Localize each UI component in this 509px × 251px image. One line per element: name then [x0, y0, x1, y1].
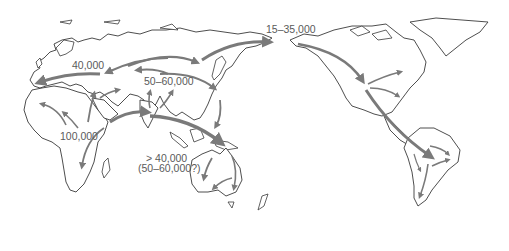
- label-asia-date: 50–60,000: [144, 76, 194, 87]
- route-arrow-to-sahul: [150, 116, 220, 142]
- label-beringia-date: 15–35,000: [266, 24, 316, 35]
- south-america-landmass: [404, 128, 460, 206]
- label-africa-date: 100,000: [60, 131, 98, 142]
- tasmania-island: [228, 202, 234, 208]
- arctic-island: [104, 20, 120, 24]
- north-america-landmass: [290, 24, 426, 116]
- label-europe-date: 40,000: [72, 60, 104, 71]
- new-zealand-island: [258, 194, 268, 210]
- route-arrow-east-asia-south: [216, 100, 221, 126]
- label-australia-alt-date: (50–60,000?): [138, 163, 200, 174]
- greenland-landmass: [410, 18, 488, 56]
- sumatra-island: [170, 132, 188, 148]
- arctic-island: [60, 20, 72, 24]
- madagascar-island: [102, 158, 110, 178]
- world-map: [0, 0, 509, 251]
- arctic-island: [160, 24, 178, 30]
